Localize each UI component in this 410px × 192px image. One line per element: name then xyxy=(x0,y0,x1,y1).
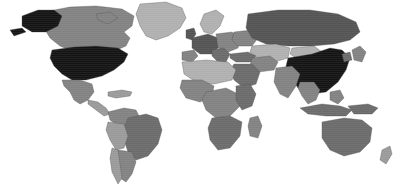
world-map-svg: GreenlandCanadaAlaskaUnited StatesMexico… xyxy=(0,0,410,192)
country-korea: Korea xyxy=(342,52,352,62)
world-map-figure: GreenlandCanadaAlaskaUnited StatesMexico… xyxy=(0,0,410,192)
